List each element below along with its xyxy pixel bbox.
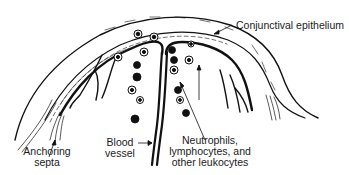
label-anchoring-septa: Anchoring septa: [15, 146, 79, 168]
label-conjunctival-epithelium: Conjunctival epithelium: [236, 20, 344, 31]
label-blood-vessel-line2: vessel: [100, 148, 140, 159]
stroma-boundary: [60, 41, 252, 115]
label-blood-vessel: Blood vessel: [100, 137, 140, 159]
label-leukocytes: Neutrophils, lymphocytes, and other leuk…: [165, 135, 255, 168]
label-anchoring-septa-line2: septa: [15, 157, 79, 168]
label-leukocytes-line3: other leukocytes: [165, 157, 255, 168]
leukocytes: [114, 30, 194, 123]
